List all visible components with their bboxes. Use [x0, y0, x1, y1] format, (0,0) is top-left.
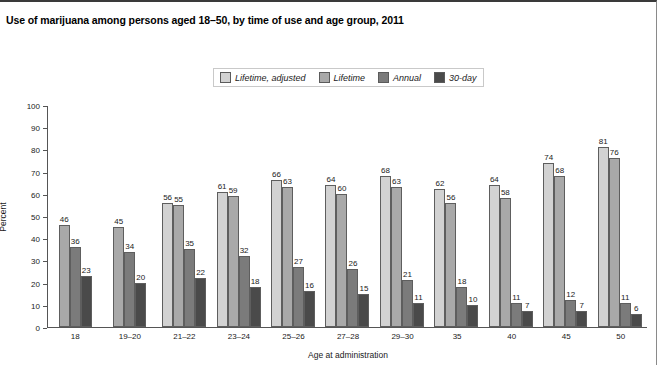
- bar[interactable]: [228, 196, 239, 327]
- bar[interactable]: [184, 249, 195, 327]
- legend-item[interactable]: 30-day: [434, 72, 477, 83]
- y-tick-mark: [43, 195, 47, 196]
- y-tick-mark: [43, 106, 47, 107]
- bar[interactable]: [413, 303, 424, 327]
- bar[interactable]: [554, 176, 565, 327]
- bar-wrapper: 22: [195, 106, 206, 327]
- bar[interactable]: [434, 189, 445, 327]
- bar-value-label: 27: [294, 257, 303, 266]
- bar[interactable]: [113, 227, 124, 327]
- bar[interactable]: [135, 283, 146, 327]
- bar[interactable]: [293, 267, 304, 327]
- bar[interactable]: [81, 276, 92, 327]
- legend-item-label: Annual: [393, 73, 421, 83]
- plot-area: Percent 1009080706050403020100 463623453…: [47, 106, 647, 328]
- bar[interactable]: [380, 176, 391, 327]
- y-tick-label: 10: [14, 301, 40, 310]
- bar-value-label: 7: [525, 301, 529, 310]
- y-tick-label: 80: [14, 146, 40, 155]
- bar-value-label: 15: [360, 284, 369, 293]
- bar-value-label: 18: [457, 277, 466, 286]
- bar-group: 56553522: [157, 106, 211, 327]
- bar[interactable]: [70, 247, 81, 327]
- x-tick-label: 25–26: [266, 332, 321, 341]
- y-tick-mark: [43, 128, 47, 129]
- bar[interactable]: [391, 187, 402, 327]
- bar-wrapper: 7: [522, 106, 533, 327]
- bar[interactable]: [402, 280, 413, 327]
- y-tick-mark: [43, 173, 47, 174]
- bar-value-label: 76: [610, 148, 619, 157]
- bar-group-bars: 7468127: [543, 106, 587, 327]
- bar-value-label: 62: [435, 179, 444, 188]
- bar[interactable]: [609, 158, 620, 327]
- bar[interactable]: [325, 185, 336, 327]
- bar[interactable]: [358, 294, 369, 327]
- bar[interactable]: [336, 194, 347, 327]
- bar-wrapper: 36: [70, 106, 81, 327]
- bar-wrapper: 63: [282, 106, 293, 327]
- bar-value-label: 12: [566, 290, 575, 299]
- bar-value-label: 66: [272, 170, 281, 179]
- bar[interactable]: [347, 269, 358, 327]
- bar[interactable]: [620, 303, 631, 327]
- bar-group-bars: 62561810: [434, 106, 478, 327]
- x-tick-label: 35: [430, 332, 485, 341]
- bar[interactable]: [500, 198, 511, 327]
- bar[interactable]: [511, 303, 522, 327]
- legend-item-label: 30-day: [449, 73, 477, 83]
- legend-item[interactable]: Annual: [378, 72, 421, 83]
- bar[interactable]: [304, 291, 315, 327]
- bar[interactable]: [162, 203, 173, 327]
- bar[interactable]: [576, 311, 587, 327]
- bar[interactable]: [522, 311, 533, 327]
- bar-group-bars: 8176116: [598, 106, 642, 327]
- bar-wrapper: 6: [631, 106, 642, 327]
- bar[interactable]: [195, 278, 206, 327]
- bar-group-bars: 453420: [113, 106, 146, 327]
- bar-wrapper: 12: [565, 106, 576, 327]
- bar-value-label: 32: [240, 246, 249, 255]
- bar-group: 7468127: [538, 106, 592, 327]
- y-tick-label: 20: [14, 279, 40, 288]
- bar-group: 68632111: [375, 106, 429, 327]
- bar[interactable]: [282, 187, 293, 327]
- bar-wrapper: 21: [402, 106, 413, 327]
- bar-value-label: 46: [60, 215, 69, 224]
- bar-value-label: 64: [327, 175, 336, 184]
- bar-wrapper: 18: [250, 106, 261, 327]
- x-tick-label: 23–24: [212, 332, 267, 341]
- bar-wrapper: 32: [239, 106, 250, 327]
- legend-item[interactable]: Lifetime, adjusted: [220, 72, 306, 83]
- bar[interactable]: [565, 300, 576, 327]
- bar[interactable]: [271, 180, 282, 327]
- bar-wrapper: 64: [489, 106, 500, 327]
- bar[interactable]: [631, 314, 642, 327]
- bar-wrapper: 23: [81, 106, 92, 327]
- bar[interactable]: [467, 305, 478, 327]
- bar[interactable]: [445, 203, 456, 327]
- bar-wrapper: 16: [304, 106, 315, 327]
- x-tick-label: 19–20: [103, 332, 158, 341]
- bar-wrapper: 7: [576, 106, 587, 327]
- bar-value-label: 56: [446, 193, 455, 202]
- bar[interactable]: [489, 185, 500, 327]
- x-tick-label: 50: [593, 332, 648, 341]
- legend-item[interactable]: Lifetime: [319, 72, 366, 83]
- bar-value-label: 74: [544, 153, 553, 162]
- bar[interactable]: [124, 252, 135, 327]
- bar[interactable]: [250, 287, 261, 327]
- y-tick-mark: [43, 328, 47, 329]
- legend-swatch-icon: [434, 72, 445, 83]
- bar[interactable]: [59, 225, 70, 327]
- bar-wrapper: 60: [336, 106, 347, 327]
- y-tick-mark: [43, 284, 47, 285]
- bar[interactable]: [598, 147, 609, 327]
- bar[interactable]: [239, 256, 250, 327]
- bar[interactable]: [217, 192, 228, 327]
- bar-wrapper: 66: [271, 106, 282, 327]
- y-tick-mark: [43, 217, 47, 218]
- bar[interactable]: [543, 163, 554, 327]
- bar[interactable]: [456, 287, 467, 327]
- bar[interactable]: [173, 205, 184, 327]
